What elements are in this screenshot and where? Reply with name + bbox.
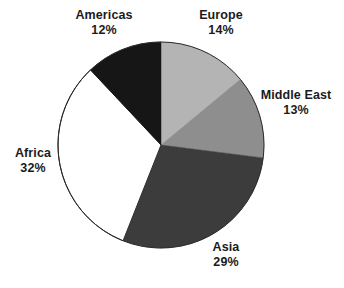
pie-label-africa-value: 32% [2,161,64,176]
pie-label-americas: Americas 12% [58,8,150,38]
pie-chart: Americas 12% Europe 14% Middle East 13% … [0,0,344,288]
pie-slice-group [58,42,264,248]
pie-label-americas-value: 12% [58,23,150,38]
pie-label-middle-east: Middle East 13% [248,88,344,118]
pie-label-europe-name: Europe [178,8,264,23]
pie-label-europe-value: 14% [178,23,264,38]
pie-chart-canvas [0,0,344,288]
pie-label-europe: Europe 14% [178,8,264,38]
pie-label-asia-value: 29% [190,255,262,270]
pie-label-americas-name: Americas [58,8,150,23]
pie-label-asia: Asia 29% [190,240,262,270]
pie-label-africa: Africa 32% [2,146,64,176]
pie-label-africa-name: Africa [2,146,64,161]
pie-label-asia-name: Asia [190,240,262,255]
pie-label-middle-east-value: 13% [248,103,344,118]
pie-label-middle-east-name: Middle East [248,88,344,103]
